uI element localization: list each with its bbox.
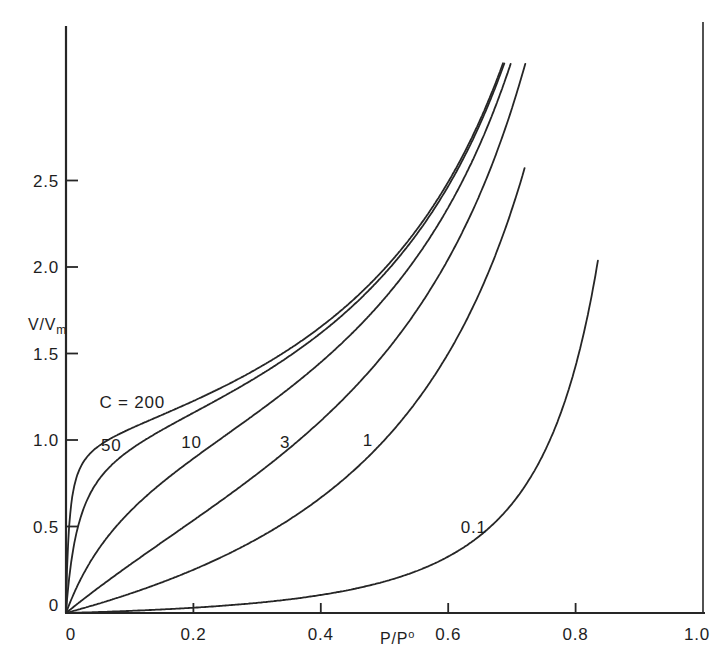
curve-label-c01: 0.1 bbox=[461, 518, 487, 537]
x-tick-label: 0.4 bbox=[308, 625, 334, 644]
isotherm-curve-c01 bbox=[66, 261, 598, 613]
curves-layer bbox=[66, 63, 598, 613]
curve-label-c1: 1 bbox=[363, 431, 373, 450]
curve-label-c200: C = 200 bbox=[99, 393, 165, 412]
curve-label-c50: 50 bbox=[101, 436, 122, 455]
curve-label-c10: 10 bbox=[181, 433, 202, 452]
x-axis-title: P/Po bbox=[380, 628, 415, 647]
x-axis-title-superscript: o bbox=[408, 628, 415, 640]
y-tick-label: 0.5 bbox=[33, 518, 59, 537]
y-tick-label: 0 bbox=[49, 596, 59, 615]
y-tick-label: 2.5 bbox=[33, 172, 59, 191]
isotherm-chart: 00.20.40.60.81.000.51.01.52.02.5 C = 200… bbox=[0, 0, 728, 668]
curve-labels-layer: C = 2005010310.1 bbox=[99, 393, 486, 537]
bet-isotherm-figure: 00.20.40.60.81.000.51.01.52.02.5 C = 200… bbox=[0, 0, 728, 668]
x-tick-label: 0.8 bbox=[563, 625, 589, 644]
y-tick-label: 2.0 bbox=[33, 258, 59, 277]
x-tick-label: 0 bbox=[66, 625, 76, 644]
y-axis-title-subscript: m bbox=[56, 323, 67, 337]
isotherm-curve-c200 bbox=[66, 63, 503, 613]
y-axis-title: V/Vm bbox=[28, 316, 67, 337]
x-tick-label: 0.6 bbox=[435, 625, 461, 644]
curve-label-c3: 3 bbox=[280, 433, 290, 452]
isotherm-curve-c50 bbox=[66, 64, 504, 614]
y-tick-label: 1.5 bbox=[33, 345, 59, 364]
isotherm-curve-c1 bbox=[66, 168, 525, 613]
isotherm-curve-c10 bbox=[66, 64, 511, 613]
y-axis-title-main: V/V bbox=[28, 316, 56, 333]
y-tick-label: 1.0 bbox=[33, 431, 59, 450]
x-tick-label: 0.2 bbox=[180, 625, 206, 644]
x-tick-label: 1.0 bbox=[684, 625, 710, 644]
x-axis-title-main: P/P bbox=[380, 630, 408, 647]
